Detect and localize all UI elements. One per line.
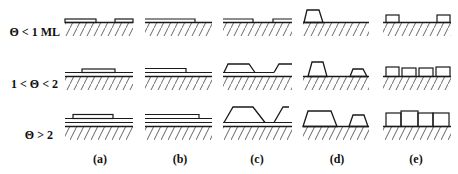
row-2-one-to-two-ml bbox=[65, 62, 451, 90]
substrate-hatch bbox=[65, 127, 133, 140]
panel-d-row2 bbox=[303, 62, 369, 90]
panel-c-row1 bbox=[223, 19, 292, 36]
panel-c-row2 bbox=[223, 64, 292, 90]
panel-e-row2 bbox=[383, 67, 451, 90]
column-island bbox=[386, 113, 401, 127]
panel-d-row3 bbox=[303, 111, 369, 140]
3d-island-large bbox=[303, 111, 337, 127]
panel-b-row1 bbox=[145, 19, 212, 36]
3d-island-small bbox=[350, 69, 367, 77]
panel-b-row2 bbox=[145, 69, 212, 91]
column-island bbox=[386, 15, 399, 23]
substrate-hatch bbox=[145, 77, 212, 90]
row-1-submonolayer bbox=[65, 10, 451, 36]
3d-island bbox=[274, 107, 289, 123]
column-label-b: (b) bbox=[165, 152, 195, 167]
3d-island-large bbox=[308, 62, 327, 77]
row-label-one-to-two: 1 < Θ < 2 bbox=[11, 77, 58, 92]
substrate-hatch bbox=[303, 23, 369, 36]
panel-a-row3 bbox=[65, 115, 133, 141]
panel-e-row3 bbox=[383, 111, 451, 140]
substrate-hatch bbox=[145, 127, 212, 140]
column-label-d: (d) bbox=[322, 152, 352, 167]
column-island bbox=[437, 15, 450, 23]
3d-island-small bbox=[349, 115, 368, 127]
substrate-hatch bbox=[303, 77, 369, 90]
substrate-hatch bbox=[223, 23, 292, 36]
monolayer-island bbox=[115, 19, 133, 23]
3d-island bbox=[274, 64, 292, 73]
panel-e-row1 bbox=[383, 15, 451, 36]
growth-mode-diagram: Θ < 1 ML 1 < Θ < 2 Θ > 2 (a) (b) (c) (d)… bbox=[0, 0, 458, 174]
column-island bbox=[402, 68, 416, 77]
substrate-hatch bbox=[145, 23, 212, 36]
column-island bbox=[433, 113, 449, 127]
row-label-submonolayer: Θ < 1 ML bbox=[9, 25, 60, 40]
diagram-canvas bbox=[0, 0, 458, 174]
column-island bbox=[436, 67, 450, 77]
substrate-hatch bbox=[383, 77, 451, 90]
panel-a-row2 bbox=[65, 69, 133, 90]
column-island bbox=[401, 111, 418, 127]
3d-island-large bbox=[224, 107, 265, 123]
panel-d-row1 bbox=[303, 10, 369, 36]
second-layer-island bbox=[82, 69, 115, 73]
row-label-over-two: Θ > 2 bbox=[25, 128, 53, 143]
panel-c-row3 bbox=[223, 107, 292, 140]
substrate-hatch bbox=[303, 127, 369, 140]
monolayer-island bbox=[65, 19, 96, 23]
substrate-hatch bbox=[223, 127, 292, 140]
substrate-hatch bbox=[65, 23, 133, 36]
column-island bbox=[419, 68, 433, 77]
third-layer-island bbox=[73, 115, 113, 119]
panel-a-row1 bbox=[65, 19, 133, 36]
substrate-hatch bbox=[383, 127, 451, 140]
column-island bbox=[386, 67, 399, 77]
3d-island bbox=[224, 64, 255, 73]
column-label-e: (e) bbox=[401, 152, 431, 167]
panel-b-row3 bbox=[145, 115, 212, 141]
column-island bbox=[418, 113, 433, 127]
substrate-hatch bbox=[65, 77, 133, 90]
substrate-hatch bbox=[223, 77, 292, 90]
row-3-over-two-ml bbox=[65, 107, 451, 140]
column-label-c: (c) bbox=[242, 152, 272, 167]
column-label-a: (a) bbox=[85, 152, 115, 167]
3d-island bbox=[304, 10, 323, 23]
substrate-hatch bbox=[383, 23, 451, 36]
